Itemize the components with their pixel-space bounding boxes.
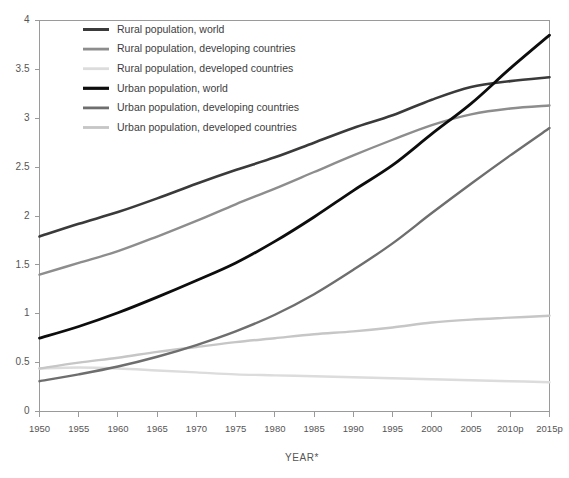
legend-item-label: Rural population, developing countries (117, 42, 296, 54)
x-axis-tick-labels: 1950195519601965197019751980198519901995… (29, 423, 563, 434)
y-axis-tick-labels: 00.511.522.533.54 (16, 14, 30, 416)
legend-item-label: Rural population, world (117, 23, 225, 35)
y-tick-label: 2.5 (16, 161, 30, 172)
tick-marks (35, 21, 550, 417)
y-tick-label: 4 (24, 14, 30, 25)
x-tick-label: 1960 (107, 423, 128, 434)
legend-item-label: Rural population, developed countries (117, 62, 293, 74)
x-tick-label: 1955 (68, 423, 89, 434)
y-tick-label: 3.5 (16, 63, 30, 74)
x-tick-label: 1990 (343, 423, 364, 434)
legend-item-label: Urban population, developing countries (117, 101, 299, 113)
x-tick-label: 2015p (536, 423, 562, 434)
y-tick-label: 3 (24, 112, 30, 123)
x-axis-title: YEAR* (285, 452, 319, 463)
legend-item-label: Urban population, world (117, 82, 228, 94)
x-tick-label: 1950 (29, 423, 50, 434)
x-tick-label: 1970 (186, 423, 207, 434)
y-tick-label: 1 (24, 307, 30, 318)
series-lines (40, 35, 550, 382)
x-tick-label: 1975 (225, 423, 246, 434)
x-tick-label: 2005 (460, 423, 481, 434)
series-line (40, 316, 550, 369)
y-tick-label: 2 (24, 210, 30, 221)
chart-container: 00.511.522.533.54 1950195519601965197019… (0, 0, 569, 478)
series-line (40, 35, 550, 338)
x-tick-label: 1995 (382, 423, 403, 434)
y-tick-label: 0 (24, 405, 30, 416)
x-tick-label: 2000 (421, 423, 442, 434)
line-chart: 00.511.522.533.54 1950195519601965197019… (0, 0, 569, 478)
x-tick-label: 2010p (497, 423, 523, 434)
series-line (40, 128, 550, 381)
axis-frame (40, 21, 550, 412)
series-line (40, 368, 550, 383)
chart-legend: Rural population, worldRural population,… (83, 23, 299, 133)
x-tick-label: 1980 (264, 423, 285, 434)
y-tick-label: 1.5 (16, 259, 30, 270)
x-tick-label: 1965 (147, 423, 168, 434)
y-tick-label: 0.5 (16, 356, 30, 367)
legend-item-label: Urban population, developed countries (117, 121, 297, 133)
x-tick-label: 1985 (304, 423, 325, 434)
